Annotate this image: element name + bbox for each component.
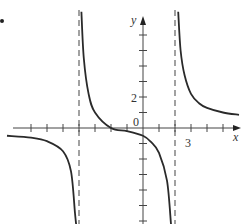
vertical-asymptotes xyxy=(79,10,175,224)
x-tick-label-3: 3 xyxy=(185,136,191,150)
curve-branch xyxy=(81,12,171,224)
axes xyxy=(13,16,241,224)
y-axis-arrow-icon xyxy=(140,16,146,25)
y-axis-label: y xyxy=(130,13,137,27)
curve-branch xyxy=(178,12,239,115)
x-axis-label: x xyxy=(232,130,239,144)
curve-branches xyxy=(7,12,239,224)
function-graph: y x 0 2 3 xyxy=(0,0,241,224)
y-tick-label-2: 2 xyxy=(131,91,137,105)
origin-label: 0 xyxy=(133,115,139,129)
curve-branch xyxy=(7,136,76,224)
